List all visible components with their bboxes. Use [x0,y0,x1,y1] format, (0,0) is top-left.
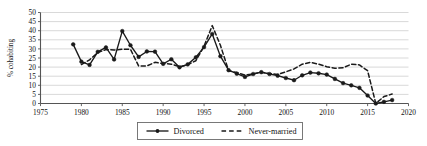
data-point-marker [129,43,133,47]
data-point-marker [349,83,353,87]
y-axis-tick-label: 25 [29,54,37,63]
data-point-marker [120,29,124,33]
data-point-marker [71,43,75,47]
data-point-marker [309,71,313,75]
y-axis-tick-label: 5 [32,90,36,99]
legend-label-never-married: Never-married [249,127,297,136]
data-point-marker [366,94,370,98]
data-point-marker [112,58,116,62]
y-axis-tick-label: 15 [29,72,37,81]
cohabiting-line-chart: 05101520253035404550% cohabiting 1975198… [0,0,427,146]
x-axis-tick-label: 1975 [33,108,48,117]
data-point-marker [153,50,157,54]
data-point-marker [382,100,386,104]
x-axis-tick-label: 2015 [360,108,375,117]
data-point-marker [137,55,141,59]
chart-legend: DivorcedNever-married [138,123,303,140]
y-axis-tick-label: 35 [29,35,37,44]
data-point-marker [104,46,108,50]
y-axis-tick-label: 40 [29,26,37,35]
data-point-marker [169,57,173,61]
data-point-marker [317,71,321,75]
y-axis-tick-label: 50 [29,8,37,17]
x-axis-tick-label: 2010 [319,108,334,117]
x-axis-tick-label: 1990 [156,108,171,117]
data-point-marker [145,50,149,54]
data-point-marker [292,78,296,82]
x-axis-tick-label: 2000 [238,108,253,117]
y-axis-tick-label: 10 [29,81,37,90]
y-axis-tick-label: 30 [29,45,37,54]
data-point-marker [333,77,337,81]
data-point-marker [300,73,304,77]
data-point-marker [358,86,362,90]
data-point-marker [341,81,345,85]
chart-canvas: 05101520253035404550% cohabiting 1975198… [0,0,427,146]
data-point-marker [80,60,84,64]
legend-label-divorced: Divorced [174,127,204,136]
legend-marker-divorced [156,129,160,133]
data-point-marker [284,76,288,80]
x-axis-tick-label: 2005 [278,108,293,117]
x-axis-tick-label: 2020 [401,108,416,117]
data-point-marker [325,73,329,77]
x-axis-tick-label: 1995 [197,108,212,117]
y-axis-title: % cohabiting [7,39,15,78]
x-axis-tick-label: 1980 [74,108,89,117]
data-point-marker [219,54,223,58]
data-point-marker [210,32,214,36]
y-axis-tick-label: 45 [29,17,37,26]
y-axis-tick-label: 0 [32,99,36,108]
data-point-marker [390,98,394,102]
x-axis-tick-label: 1985 [115,108,130,117]
data-point-marker [88,63,92,67]
y-axis-tick-label: 20 [29,63,37,72]
